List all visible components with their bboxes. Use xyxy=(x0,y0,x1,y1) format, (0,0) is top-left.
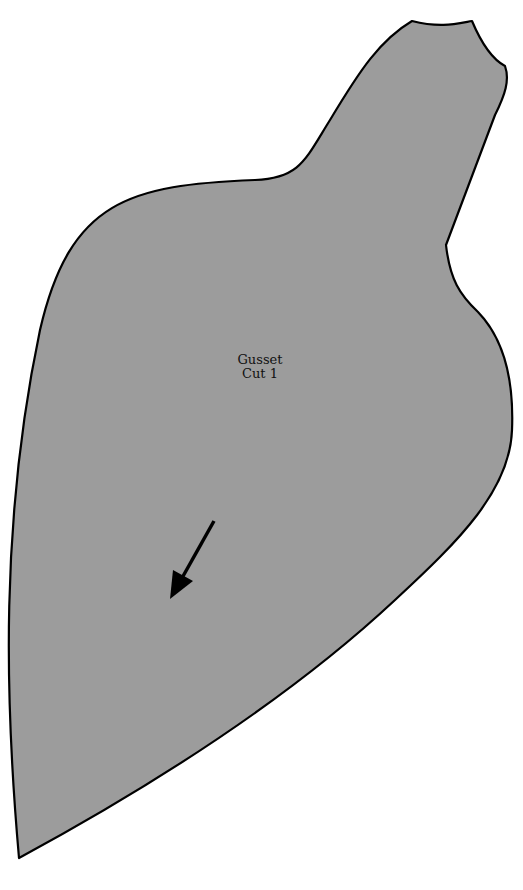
pattern-piece-diagram xyxy=(0,0,523,890)
gusset-outline xyxy=(9,21,512,858)
piece-label: Gusset Cut 1 xyxy=(200,353,320,381)
piece-name: Gusset xyxy=(200,353,320,367)
cut-instruction: Cut 1 xyxy=(200,367,320,381)
